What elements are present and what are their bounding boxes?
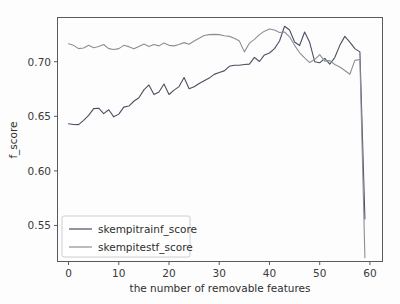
y-tick-label: 0.65 xyxy=(28,110,51,122)
x-tick-label: 40 xyxy=(263,267,276,279)
x-tick-label: 20 xyxy=(162,267,175,279)
x-tick-label: 60 xyxy=(363,267,376,279)
x-tick-label: 50 xyxy=(313,267,326,279)
y-tick-label: 0.70 xyxy=(28,56,51,68)
y-axis-title: f_score xyxy=(7,121,20,158)
chart-legend: skempitrainf_scoreskempitestf_score xyxy=(62,216,197,257)
chart-figure: 0102030405060 0.550.600.650.70 skempitra… xyxy=(0,0,400,304)
x-tick-label: 0 xyxy=(65,267,72,279)
y-tick-label: 0.60 xyxy=(28,165,51,177)
legend-label: skempitestf_score xyxy=(98,241,193,254)
x-tick-label: 30 xyxy=(213,267,226,279)
x-tick-label: 10 xyxy=(112,267,125,279)
line-chart: 0102030405060 0.550.600.650.70 skempitra… xyxy=(0,0,400,304)
legend-label: skempitrainf_score xyxy=(98,223,197,236)
x-axis-title: the number of removable features xyxy=(130,282,311,294)
y-tick-label: 0.55 xyxy=(28,219,51,231)
